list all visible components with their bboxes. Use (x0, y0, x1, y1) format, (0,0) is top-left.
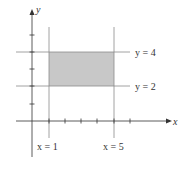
label-y-equals-4: y = 4 (135, 47, 156, 58)
label-x-equals-5: x = 5 (103, 141, 124, 152)
y-axis-arrow-icon (30, 9, 35, 15)
coordinate-diagram: x y y = 4 y = 2 x = 1 x = 5 (0, 0, 183, 169)
label-y-equals-2: y = 2 (135, 81, 156, 92)
x-axis-label: x (172, 116, 178, 127)
x-axis-arrow-icon (166, 119, 172, 124)
shaded-region (49, 52, 114, 86)
y-axis-label: y (35, 4, 41, 15)
label-x-equals-1: x = 1 (37, 141, 58, 152)
